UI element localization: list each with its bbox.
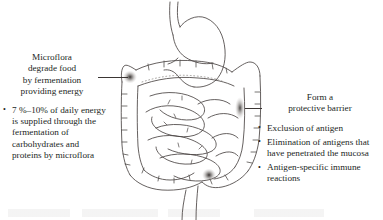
stomach-lesser-curvature — [173, 35, 213, 64]
bacteria-marker-cecum — [202, 169, 216, 182]
sigmoid-inner — [214, 167, 235, 179]
left-heading-line-2: degrade food — [28, 63, 76, 73]
esophagus-right-wall — [177, 2, 180, 27]
small-intestine-loop-3 — [156, 124, 216, 154]
digestive-tract-illustration — [112, 0, 272, 220]
left-heading-line-1: Microflora — [32, 52, 72, 62]
right-heading-line-2: protective barrier — [288, 103, 352, 113]
cecum — [130, 175, 202, 190]
splenic-flexure — [232, 62, 260, 76]
left-callout-bullets: 7 %–10% of daily energy is supplied thro… — [2, 105, 106, 162]
ascending-colon-inner — [137, 86, 144, 170]
transverse-colon-superior-border — [136, 60, 232, 72]
gut-microflora-figure: Microflora degrade food by fermentation … — [0, 0, 383, 220]
cropped-caption-remnant — [8, 209, 348, 217]
list-item: Antigen-specific immune reactions — [258, 162, 382, 185]
esophagus-left-wall — [170, 2, 173, 35]
left-callout: Microflora degrade food by fermentation … — [2, 52, 106, 163]
small-intestine-loop-4 — [148, 136, 207, 165]
list-item: 7 %–10% of daily energy is supplied thro… — [2, 105, 106, 162]
cecum-inner — [144, 170, 194, 180]
stomach-greater-curvature — [180, 17, 225, 80]
bacteria-marker-descending-colon — [235, 97, 245, 119]
small-intestine-loop-2 — [146, 106, 204, 137]
right-callout-heading: Form a protective barrier — [258, 92, 382, 115]
ascending-colon — [121, 82, 130, 175]
left-heading-line-4: providing energy — [21, 86, 84, 96]
list-item: Exclusion of antigen — [258, 123, 382, 134]
right-callout: Form a protective barrier Exclusion of a… — [258, 92, 382, 187]
right-heading-line-1: Form a — [307, 92, 333, 102]
small-intestine-loop-7 — [208, 114, 238, 119]
left-callout-heading: Microflora degrade food by fermentation … — [2, 52, 106, 98]
list-item: Elimination of antigens that have penetr… — [258, 137, 382, 160]
small-intestine-loop-9 — [216, 152, 238, 156]
small-intestine-loop-8 — [212, 134, 238, 139]
small-intestine-loop-6 — [198, 100, 230, 105]
stomach-antrum — [194, 80, 216, 87]
right-callout-bullets: Exclusion of antigen Elimination of anti… — [258, 123, 382, 185]
left-heading-line-3: by fermentation — [23, 75, 81, 85]
haustra-ticks — [122, 60, 260, 184]
